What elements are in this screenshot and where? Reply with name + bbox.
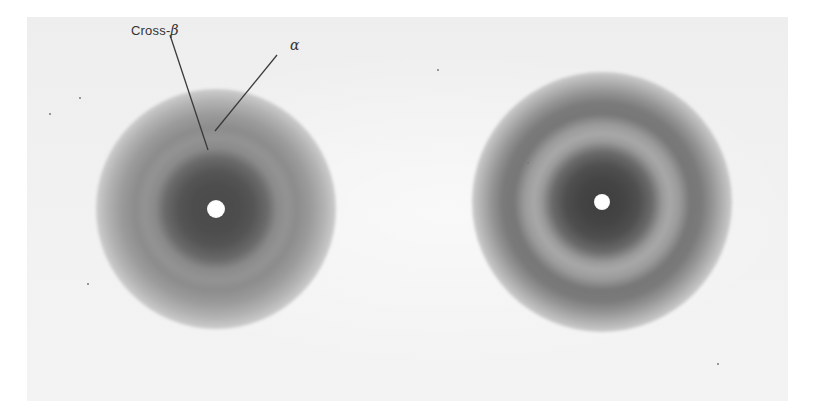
- film-speck: [437, 69, 439, 71]
- diffraction-figure: Cross-β α: [27, 17, 788, 401]
- right-beam-stop-spot: [594, 194, 610, 210]
- film-speck: [717, 363, 719, 365]
- film-speck: [49, 113, 51, 115]
- film-speck: [527, 162, 529, 164]
- left-beam-stop-spot: [207, 200, 225, 218]
- cross-beta-label-text: Cross-: [131, 23, 170, 38]
- cross-beta-label: Cross-β: [131, 23, 179, 37]
- beta-symbol: β: [170, 22, 178, 38]
- film-speck: [87, 283, 89, 285]
- alpha-label: α: [290, 38, 299, 52]
- film-speck: [79, 97, 81, 99]
